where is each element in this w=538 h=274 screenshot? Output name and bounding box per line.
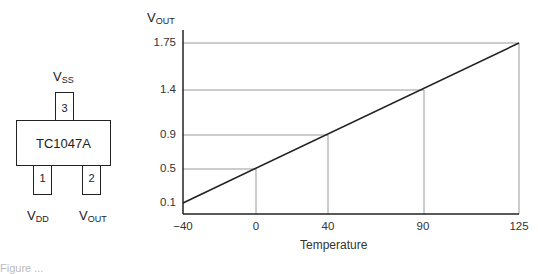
x-tick-40: 40 <box>308 220 348 232</box>
y-tick-1.75: 1.75 <box>146 36 176 48</box>
x-tick-125: 125 <box>499 220 538 232</box>
axes <box>183 30 519 214</box>
x-tick-90: 90 <box>403 220 443 232</box>
y-tick-1.4: 1.4 <box>146 83 176 95</box>
y-tick-0.9: 0.9 <box>146 128 176 140</box>
x-axis-title: Temperature <box>300 238 367 252</box>
y-tick-0.5: 0.5 <box>146 162 176 174</box>
guide-lines <box>183 43 519 214</box>
figure-caption: Figure ... <box>0 262 43 274</box>
vout-line <box>183 43 519 203</box>
y-axis-title: VOUT <box>147 10 175 26</box>
x-tick--40: −40 <box>163 220 203 232</box>
y-tick-0.1: 0.1 <box>146 196 176 208</box>
x-tick-0: 0 <box>236 220 276 232</box>
